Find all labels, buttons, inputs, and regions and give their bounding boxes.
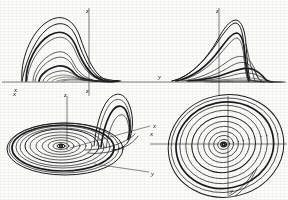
- lower-left-spiral: [7, 123, 123, 175]
- orbit-curve: [206, 129, 241, 161]
- orbit-curve: [27, 37, 101, 81]
- orbit-curve: [172, 97, 274, 192]
- panel-upper-right: y z: [140, 7, 286, 96]
- axis-label-y: y: [157, 73, 162, 81]
- orbit-curve: [212, 134, 235, 156]
- axis-label-z: z: [215, 7, 219, 15]
- figure-canvas: .ink { fill:none; stroke:#1b1b1b; stroke…: [0, 0, 288, 200]
- upper-right-labels: y z: [157, 7, 219, 81]
- orbit-curve: [178, 38, 248, 81]
- upper-left-trajectories: [22, 18, 121, 82]
- panel-lower-right: x y: [149, 84, 288, 200]
- upper-right-axes: [140, 8, 286, 96]
- lower-right-spiral: [159, 84, 288, 200]
- orbit-curve: [36, 135, 86, 157]
- leader-line-y: [94, 164, 149, 172]
- orbit-curve: [48, 140, 74, 152]
- axis-label-z: z: [85, 7, 89, 15]
- axis-label-x: x: [149, 130, 154, 138]
- orbit-curve: [30, 132, 92, 160]
- panel-lower-left: x z x y: [7, 90, 157, 178]
- fixed-point: [222, 143, 226, 147]
- orbit-curve: [217, 138, 231, 150]
- panel-upper-left: x z z: [2, 7, 140, 96]
- axis-label-x: x: [152, 122, 157, 130]
- axis-label-z-lower: z: [85, 87, 89, 95]
- orbit-curve: [26, 32, 118, 81]
- upper-right-trajectories: [172, 20, 284, 82]
- axis-label-y: y: [150, 170, 155, 178]
- lower-left-rising-lobe: [85, 94, 138, 153]
- upper-left-axes: [2, 8, 140, 96]
- fixed-point: [60, 145, 63, 148]
- orbit-curve: [200, 123, 247, 167]
- axis-label-z: z: [63, 91, 67, 99]
- phase-portrait-figure: .ink { fill:none; stroke:#1b1b1b; stroke…: [0, 0, 288, 200]
